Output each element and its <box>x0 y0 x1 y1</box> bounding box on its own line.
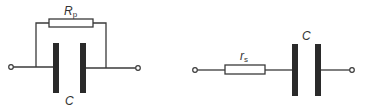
capacitor-plate-right <box>315 44 321 96</box>
capacitor-plate-left <box>292 44 298 96</box>
series-circuit: rs C <box>193 29 355 96</box>
capacitor-plate-left <box>53 43 59 93</box>
label-rp: Rp <box>64 4 78 19</box>
wire-bypass-right <box>93 23 106 68</box>
left-terminal <box>9 65 14 70</box>
parallel-circuit: Rp C <box>9 4 141 108</box>
right-terminal <box>136 66 141 71</box>
label-c-right: C <box>302 29 311 43</box>
left-terminal <box>193 68 198 73</box>
label-rs: rs <box>240 49 248 64</box>
resistor-rp <box>49 19 93 27</box>
label-c-left: C <box>65 94 74 108</box>
capacitor-plate-right <box>80 43 86 93</box>
resistor-rs <box>225 65 265 74</box>
wire-bypass-left <box>36 23 49 67</box>
right-terminal <box>350 68 355 73</box>
circuit-diagram: Rp C rs C <box>0 0 365 110</box>
